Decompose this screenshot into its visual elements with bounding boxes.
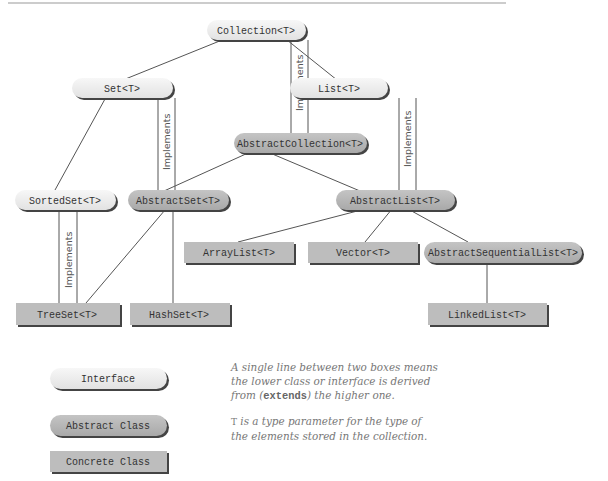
svg-text:Implements: Implements bbox=[402, 111, 413, 167]
collection-hierarchy-diagram: Implements Implements Implements Impleme… bbox=[0, 0, 608, 481]
svg-text:Concrete Class: Concrete Class bbox=[66, 457, 150, 468]
svg-text:ArrayList<T>: ArrayList<T> bbox=[203, 248, 275, 259]
svg-text:TreeSet<T>: TreeSet<T> bbox=[37, 310, 97, 321]
svg-text:Implements: Implements bbox=[161, 114, 172, 170]
legend-concrete-class: Concrete Class bbox=[50, 451, 169, 474]
node-sorted-set: SortedSet<T> bbox=[15, 190, 118, 212]
node-array-list: ArrayList<T> bbox=[184, 242, 296, 265]
node-abstract-list: AbstractList<T> bbox=[336, 190, 457, 212]
svg-text:Interface: Interface bbox=[81, 374, 135, 385]
node-collection: Collection<T> bbox=[207, 20, 308, 42]
node-hash-set: HashSet<T> bbox=[130, 303, 232, 327]
node-abstract-set: AbstractSet<T> bbox=[128, 190, 231, 212]
legend-interface: Interface bbox=[50, 368, 169, 391]
note-line: the lower class or interface is derived bbox=[231, 374, 451, 388]
node-tree-set: TreeSet<T> bbox=[16, 303, 122, 327]
note-line: T is a type parameter for the type of bbox=[231, 414, 451, 429]
node-list: List<T> bbox=[290, 78, 390, 100]
svg-text:AbstractCollection<T>: AbstractCollection<T> bbox=[237, 139, 363, 150]
node-vector: Vector<T> bbox=[308, 242, 420, 265]
svg-text:AbstractSequentialList<T>: AbstractSequentialList<T> bbox=[428, 248, 578, 259]
note-line: the elements stored in the collection. bbox=[231, 429, 451, 443]
implements-edge-abstractlist-list: Implements bbox=[399, 98, 416, 190]
note-type-parameter: T is a type parameter for the type of th… bbox=[231, 414, 451, 443]
implements-edge-abstractset-set: Implements bbox=[158, 98, 175, 190]
svg-text:Abstract Class: Abstract Class bbox=[66, 421, 150, 432]
legend-abstract-class: Abstract Class bbox=[50, 415, 169, 438]
svg-text:HashSet<T>: HashSet<T> bbox=[149, 310, 209, 321]
svg-text:AbstractSet<T>: AbstractSet<T> bbox=[136, 196, 220, 207]
svg-text:AbstractList<T>: AbstractList<T> bbox=[350, 196, 440, 207]
svg-text:Set<T>: Set<T> bbox=[104, 84, 140, 95]
note-extends-explanation: A single line between two boxes means th… bbox=[231, 360, 451, 403]
extends-keyword: extends bbox=[263, 390, 307, 402]
svg-text:LinkedList<T>: LinkedList<T> bbox=[448, 310, 526, 321]
node-abstract-sequential-list: AbstractSequentialList<T> bbox=[424, 242, 584, 265]
implements-edge-treeset-sortedset: Implements bbox=[59, 210, 77, 303]
svg-text:List<T>: List<T> bbox=[318, 84, 360, 95]
svg-text:Implements: Implements bbox=[63, 232, 74, 288]
svg-text:SortedSet<T>: SortedSet<T> bbox=[29, 196, 101, 207]
node-linked-list: LinkedList<T> bbox=[428, 303, 549, 327]
svg-text:Collection<T>: Collection<T> bbox=[217, 26, 295, 37]
note-line: from (extends) the higher one. bbox=[231, 388, 451, 403]
node-set: Set<T> bbox=[72, 78, 175, 100]
note-line: A single line between two boxes means bbox=[231, 360, 451, 374]
svg-text:Vector<T>: Vector<T> bbox=[336, 248, 390, 259]
node-abstract-collection: AbstractCollection<T> bbox=[234, 133, 369, 155]
